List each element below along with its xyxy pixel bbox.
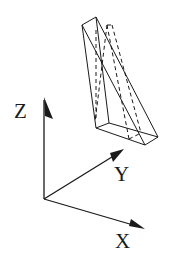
wedge-hidden-edges [95,25,141,139]
y-arrowhead-icon [110,149,124,162]
x-axis-label: X [115,229,130,253]
wedge-edge [96,123,109,128]
wedge-edge [82,25,145,145]
diagram-canvas: Z Y X [0,0,179,263]
wedge-edge [96,17,109,123]
wedge-prism [82,17,158,145]
z-axis-label: Z [14,99,27,123]
x-arrowhead-icon [129,219,145,229]
z-arrowhead-icon [44,97,53,119]
x-axis [44,199,140,227]
y-axis-label: Y [114,162,129,186]
y-axis [44,152,120,199]
